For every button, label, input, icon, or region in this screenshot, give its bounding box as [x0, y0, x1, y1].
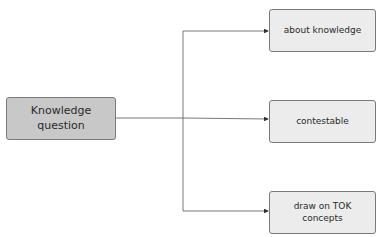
node-label-line1: Knowledge	[31, 104, 91, 118]
node-knowledge-question: Knowledge question	[6, 97, 116, 140]
node-contestable: contestable	[269, 100, 376, 143]
node-label-line2: concepts	[294, 213, 352, 225]
node-about-knowledge: about knowledge	[269, 9, 376, 52]
node-label-line1: draw on TOK	[294, 201, 352, 213]
edge-to-contestable	[183, 118, 268, 119]
node-label: about knowledge	[284, 25, 362, 37]
node-label: contestable	[296, 116, 349, 128]
node-label-line2: question	[31, 119, 91, 133]
node-draw-on-tok-concepts: draw on TOK concepts	[269, 191, 376, 234]
